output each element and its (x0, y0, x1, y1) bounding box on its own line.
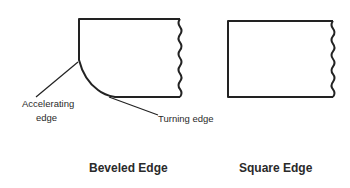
accelerating-edge-label-line2: edge (36, 113, 57, 123)
accelerating-edge-label: Accelerating (22, 99, 74, 109)
turning-edge-leader (109, 97, 158, 115)
beveled-wavy-edge (179, 19, 182, 97)
diagram-canvas (0, 0, 350, 188)
square-edge-title: Square Edge (239, 162, 312, 174)
turning-edge-label: Turning edge (158, 114, 214, 124)
square-wavy-edge (332, 21, 335, 97)
accelerating-edge-leader (36, 62, 78, 97)
beveled-edge-title: Beveled Edge (89, 162, 168, 174)
beveled-edge-shape (79, 19, 182, 97)
square-edge-shape (228, 21, 335, 97)
